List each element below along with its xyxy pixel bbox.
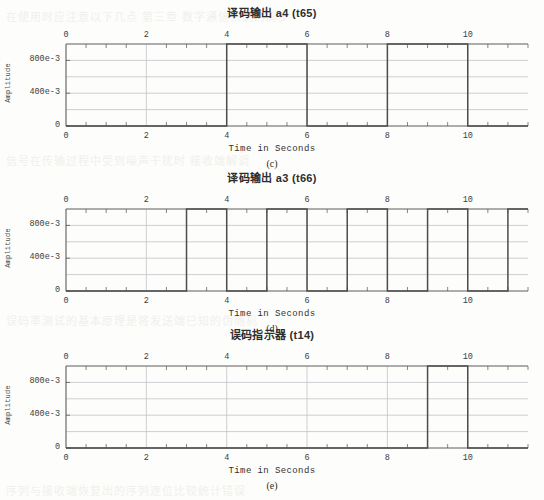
y-tick-label: 800e-3 [18,219,60,229]
x-tick-label-bottom: 2 [126,296,166,306]
x-tick-label-bottom: 4 [207,296,247,306]
chart-panel: 译码输出 a4 (t65)0400e-3800e-302468100246810… [0,4,544,164]
y-tick-label: 800e-3 [18,376,60,386]
x-tick-label-bottom: 0 [46,296,86,306]
waveform-trace [66,209,528,291]
x-tick-label-top: 4 [207,352,247,362]
x-tick-label-top: 2 [126,195,166,205]
x-tick-label-bottom: 10 [448,296,488,306]
x-tick-label-bottom: 10 [448,453,488,463]
x-tick-label-top: 10 [448,30,488,40]
chart-panel: 误码指示器 (t14)0400e-3800e-302468100246810Am… [0,326,544,486]
x-tick-label-bottom: 6 [287,296,327,306]
x-tick-label-top: 0 [46,30,86,40]
x-tick-label-top: 6 [287,30,327,40]
x-tick-label-bottom: 8 [367,453,407,463]
x-tick-label-top: 10 [448,195,488,205]
y-tick-label: 400e-3 [18,87,60,97]
x-tick-label-bottom: 4 [207,131,247,141]
y-tick-label: 0 [18,120,60,130]
x-tick-label-top: 4 [207,195,247,205]
waveform-trace [66,44,528,126]
x-axis-label: Time in Seconds [0,466,544,476]
x-axis-label: Time in Seconds [0,309,544,319]
x-tick-label-bottom: 2 [126,131,166,141]
y-tick-label: 800e-3 [18,54,60,64]
x-tick-label-top: 2 [126,30,166,40]
x-tick-label-top: 6 [287,352,327,362]
x-tick-label-bottom: 4 [207,453,247,463]
y-axis-label: Amplitude [4,381,12,429]
y-axis-label: Amplitude [4,224,12,272]
chart-subcaption: (e) [0,480,544,491]
x-tick-label-top: 4 [207,30,247,40]
chart-subcaption: (c) [0,158,544,169]
x-tick-label-bottom: 6 [287,131,327,141]
figure-page: 在使用时应注意以下几点 第三章 数字通信系统的同步信号在传输过程中受到噪声干扰时… [0,0,544,500]
x-tick-label-bottom: 2 [126,453,166,463]
x-tick-label-top: 8 [367,352,407,362]
y-axis-label: Amplitude [4,59,12,107]
x-tick-label-bottom: 8 [367,296,407,306]
x-tick-label-bottom: 8 [367,131,407,141]
x-tick-label-bottom: 0 [46,131,86,141]
x-tick-label-bottom: 0 [46,453,86,463]
x-tick-label-top: 10 [448,352,488,362]
y-tick-label: 400e-3 [18,409,60,419]
x-tick-label-top: 6 [287,195,327,205]
waveform-trace [66,366,528,448]
x-tick-label-top: 2 [126,352,166,362]
x-tick-label-bottom: 6 [287,453,327,463]
x-tick-label-top: 0 [46,195,86,205]
x-tick-label-top: 0 [46,352,86,362]
chart-panel: 译码输出 a3 (t66)0400e-3800e-302468100246810… [0,169,544,329]
x-tick-label-top: 8 [367,30,407,40]
y-tick-label: 0 [18,285,60,295]
x-tick-label-top: 8 [367,195,407,205]
x-axis-label: Time in Seconds [0,144,544,154]
x-tick-label-bottom: 10 [448,131,488,141]
y-tick-label: 0 [18,442,60,452]
y-tick-label: 400e-3 [18,252,60,262]
